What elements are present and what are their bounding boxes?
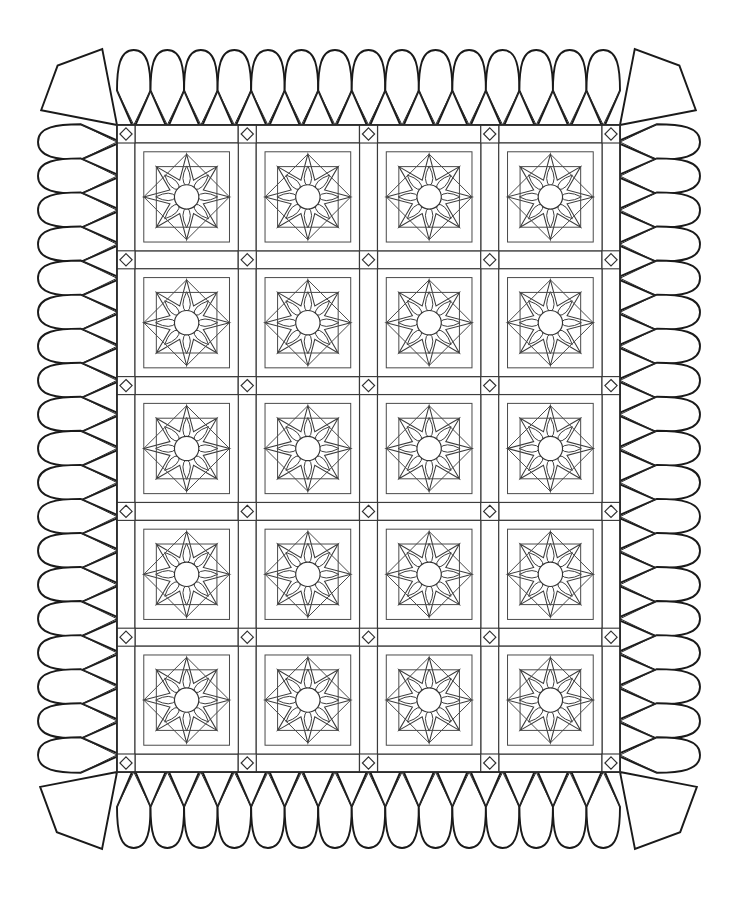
sashing-cornerstone <box>117 125 135 143</box>
star-center-circle <box>538 185 562 209</box>
star-center-circle <box>417 688 441 712</box>
star-block <box>499 269 602 377</box>
star-block <box>135 520 238 628</box>
star-center-circle <box>296 688 320 712</box>
sashing-cornerstone <box>481 377 499 395</box>
sashing-band-vertical <box>481 125 499 772</box>
sashing-cornerstone <box>602 754 620 772</box>
star-center-circle <box>538 436 562 460</box>
sashing-band-vertical <box>117 125 135 772</box>
sashing-cornerstone <box>117 502 135 520</box>
drawing-canvas: Eight-Pointed Star Quilt with Scalloped … <box>0 0 730 903</box>
star-block <box>378 143 481 251</box>
star-block <box>499 520 602 628</box>
sashing-band-vertical <box>238 125 256 772</box>
sashing-cornerstone <box>238 377 256 395</box>
star-block <box>135 143 238 251</box>
star-block <box>135 269 238 377</box>
star-block <box>378 520 481 628</box>
star-block <box>378 269 481 377</box>
sashing-cornerstone <box>602 628 620 646</box>
star-center-circle <box>538 688 562 712</box>
sashing-cornerstone <box>481 251 499 269</box>
star-center-circle <box>538 562 562 586</box>
star-block <box>378 395 481 503</box>
star-center-circle <box>174 562 198 586</box>
sashing-cornerstone <box>238 502 256 520</box>
star-block <box>499 143 602 251</box>
sashing-band-vertical <box>360 125 378 772</box>
sashing-cornerstone <box>481 628 499 646</box>
sashing-band-vertical <box>602 125 620 772</box>
sashing-cornerstone <box>238 628 256 646</box>
star-center-circle <box>174 185 198 209</box>
sashing-cornerstone <box>360 754 378 772</box>
sashing-cornerstone <box>602 251 620 269</box>
sashing-cornerstone <box>602 125 620 143</box>
sashing-cornerstone <box>481 502 499 520</box>
star-center-circle <box>417 436 441 460</box>
sashing-cornerstone <box>602 502 620 520</box>
sashing-cornerstone <box>117 377 135 395</box>
sashing-cornerstone <box>360 377 378 395</box>
sashing-cornerstone <box>360 251 378 269</box>
star-center-circle <box>174 311 198 335</box>
star-center-circle <box>296 311 320 335</box>
sashing-cornerstone <box>360 125 378 143</box>
star-block <box>256 520 359 628</box>
star-block <box>256 269 359 377</box>
star-center-circle <box>417 311 441 335</box>
star-center-circle <box>417 185 441 209</box>
quilt-body <box>117 125 620 772</box>
star-center-circle <box>296 436 320 460</box>
sashing-cornerstone <box>481 125 499 143</box>
star-center-circle <box>417 562 441 586</box>
star-center-circle <box>296 562 320 586</box>
star-block <box>499 395 602 503</box>
star-center-circle <box>538 311 562 335</box>
star-block <box>256 143 359 251</box>
sashing-cornerstone <box>360 628 378 646</box>
sashing-cornerstone <box>117 251 135 269</box>
star-block <box>135 646 238 754</box>
sashing-cornerstone <box>238 251 256 269</box>
star-block <box>135 395 238 503</box>
star-block <box>499 646 602 754</box>
star-block <box>256 646 359 754</box>
sashing-cornerstone <box>602 377 620 395</box>
star-center-circle <box>296 185 320 209</box>
sashing-cornerstone <box>117 754 135 772</box>
star-center-circle <box>174 436 198 460</box>
star-block <box>378 646 481 754</box>
sashing-cornerstone <box>238 754 256 772</box>
star-center-circle <box>174 688 198 712</box>
star-block <box>256 395 359 503</box>
quilt-pattern-illustration <box>0 0 730 903</box>
sashing-cornerstone <box>481 754 499 772</box>
sashing-cornerstone <box>117 628 135 646</box>
sashing-cornerstone <box>238 125 256 143</box>
sashing-cornerstone <box>360 502 378 520</box>
